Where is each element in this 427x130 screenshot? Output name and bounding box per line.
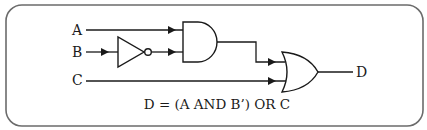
wire-a [86, 26, 183, 34]
arrow-icon [101, 48, 109, 56]
arrow-icon [268, 77, 276, 85]
arrow-icon [268, 58, 276, 66]
wire-not-to-and [152, 48, 184, 56]
boolean-equation: D = (A AND B’) OR C [144, 96, 290, 112]
input-label-a: A [71, 22, 83, 38]
arrow-icon [168, 48, 176, 56]
input-label-c: C [72, 72, 83, 88]
and-gate [183, 22, 217, 62]
wire-c [86, 77, 286, 85]
output-label-d: D [356, 64, 367, 80]
wire-and-to-or [217, 42, 285, 66]
or-gate [282, 52, 318, 92]
logic-circuit-diagram: A B C D D = (A AND B’) OR C [0, 0, 427, 130]
wire-b [86, 48, 118, 56]
not-gate [118, 37, 151, 67]
input-label-b: B [72, 44, 82, 60]
arrow-icon [168, 26, 176, 34]
inversion-bubble [145, 49, 152, 56]
